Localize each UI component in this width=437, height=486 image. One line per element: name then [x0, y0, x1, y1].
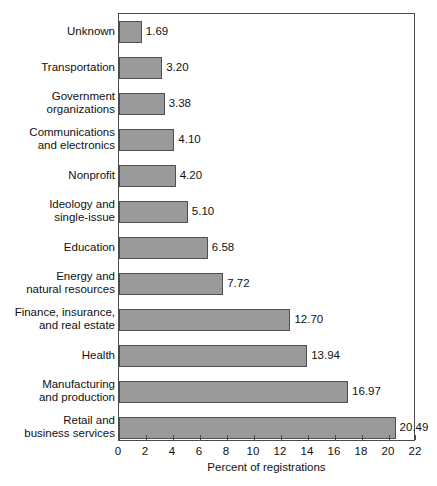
bar	[119, 165, 176, 187]
x-tick-mark	[200, 435, 201, 440]
bar-value-label: 13.94	[311, 344, 340, 366]
bar	[119, 129, 174, 151]
category-label: Finance, insurance, and real estate	[0, 306, 115, 332]
bar	[119, 57, 162, 79]
x-axis-title: Percent of registrations	[118, 461, 415, 473]
category-label: Ideology and single-issue	[0, 198, 115, 224]
category-label: Unknown	[0, 25, 115, 38]
x-tick-mark	[281, 435, 282, 440]
category-label: Communications and electronics	[0, 126, 115, 152]
bar-value-label: 4.10	[178, 128, 200, 150]
x-tick-mark	[146, 435, 147, 440]
category-label: Nonprofit	[0, 169, 115, 182]
x-tick-mark	[173, 435, 174, 440]
x-tick-mark	[308, 435, 309, 440]
bar	[119, 21, 142, 43]
bar	[119, 273, 223, 295]
bar-value-label: 16.97	[352, 380, 381, 402]
bar-value-label: 12.70	[294, 308, 323, 330]
bar-value-label: 20.49	[400, 416, 429, 438]
category-label: Energy and natural resources	[0, 270, 115, 296]
x-tick-label: 22	[395, 444, 435, 458]
bar	[119, 93, 165, 115]
bar-value-label: 4.20	[180, 164, 202, 186]
bar-value-label: 6.58	[212, 236, 234, 258]
x-tick-mark	[227, 435, 228, 440]
bar-value-label: 7.72	[227, 272, 249, 294]
bar	[119, 417, 396, 439]
bar-value-label: 1.69	[146, 20, 168, 42]
category-label: Education	[0, 241, 115, 254]
category-label: Health	[0, 349, 115, 362]
category-label: Transportation	[0, 61, 115, 74]
bar	[119, 237, 208, 259]
bar-value-label: 3.38	[169, 92, 191, 114]
bar	[119, 345, 307, 367]
bar-value-label: 3.20	[166, 56, 188, 78]
x-tick-mark	[362, 435, 363, 440]
bar-value-label: 5.10	[192, 200, 214, 222]
x-tick-mark	[119, 435, 120, 440]
category-label: Government organizations	[0, 90, 115, 116]
bar	[119, 381, 348, 403]
bar-chart: 1.69Unknown3.20Transportation3.38Governm…	[0, 0, 437, 486]
x-tick-mark	[335, 435, 336, 440]
category-label: Manufacturing and production	[0, 378, 115, 404]
bar	[119, 309, 290, 331]
bar	[119, 201, 188, 223]
x-tick-mark	[254, 435, 255, 440]
category-label: Retail and business services	[0, 414, 115, 440]
x-tick-mark	[389, 435, 390, 440]
plot-area	[118, 13, 415, 441]
